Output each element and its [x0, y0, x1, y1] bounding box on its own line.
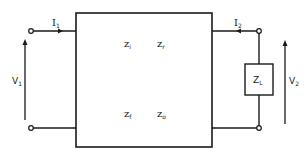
v1-arrow-icon	[23, 39, 28, 45]
label-v2: V2	[289, 76, 299, 87]
param-zi: zi	[124, 38, 131, 50]
label-i1: I1	[52, 17, 60, 29]
i1-arrow-icon	[58, 29, 63, 34]
param-zr: zr	[157, 38, 165, 50]
param-zf: zf	[124, 108, 132, 120]
i2-arrow-icon	[236, 29, 241, 34]
port2-top-terminal	[257, 29, 262, 34]
network-box	[76, 13, 212, 147]
port2-bottom-terminal	[257, 126, 262, 131]
port1-bottom-terminal	[29, 126, 34, 131]
param-zo: zo	[157, 108, 166, 120]
two-port-diagram: I1 V1 I2 V2 ZL zi zr zf zo	[0, 0, 306, 157]
port1-top-terminal	[29, 29, 34, 34]
v2-arrow-icon	[283, 40, 288, 46]
label-i2: I2	[234, 17, 242, 29]
label-v1: V1	[12, 76, 22, 87]
